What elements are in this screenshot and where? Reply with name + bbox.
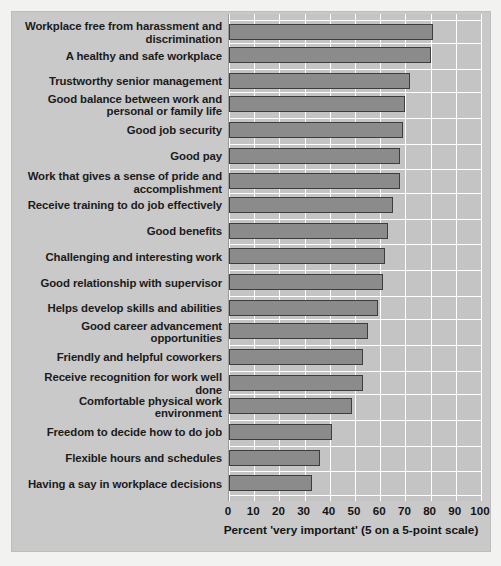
category-label: Helps develop skills and abilities: [17, 302, 222, 315]
gridline-horizontal: [229, 446, 481, 447]
bar-row: [229, 300, 481, 316]
gridline-horizontal: [229, 219, 481, 220]
gridline-horizontal: [229, 144, 481, 145]
category-label: Workplace free from harassment and discr…: [17, 20, 222, 45]
plot-area: [228, 14, 481, 501]
x-tick-label: 80: [423, 504, 436, 517]
bar: [229, 375, 363, 391]
category-label: Freedom to decide how to do job: [17, 426, 222, 439]
bar: [229, 323, 368, 339]
gridline-horizontal: [229, 69, 481, 70]
x-tick-label: 40: [322, 504, 335, 517]
x-tick-label: 50: [348, 504, 361, 517]
category-label: Comfortable physical work environment: [17, 395, 222, 420]
category-label: Flexible hours and schedules: [17, 452, 222, 465]
bar-row: [229, 424, 481, 440]
x-tick-label: 20: [272, 504, 285, 517]
gridline-horizontal: [229, 169, 481, 170]
bar-row: [229, 248, 481, 264]
bar-row: [229, 148, 481, 164]
bar-row: [229, 475, 481, 491]
bar: [229, 197, 393, 213]
bar-row: [229, 274, 481, 290]
bar: [229, 248, 385, 264]
bar: [229, 424, 332, 440]
x-tick-label: 30: [297, 504, 310, 517]
category-label: Good career advancement opportunities: [17, 320, 222, 345]
category-label-column: Workplace free from harassment and discr…: [17, 14, 222, 501]
bar: [229, 73, 410, 89]
bar-row: [229, 73, 481, 89]
gridline-horizontal: [229, 471, 481, 472]
bar: [229, 96, 405, 112]
x-tick-label: 0: [225, 504, 231, 517]
gridline-horizontal: [229, 118, 481, 119]
bar: [229, 47, 431, 63]
gridline-horizontal: [229, 345, 481, 346]
bar: [229, 300, 378, 316]
bar-row: [229, 223, 481, 239]
category-label: Work that gives a sense of pride and acc…: [17, 170, 222, 195]
category-label: Receive training to do job effectively: [17, 199, 222, 212]
gridline-vertical: [481, 14, 482, 501]
bar: [229, 450, 320, 466]
gridline-horizontal: [229, 270, 481, 271]
category-label: Good pay: [17, 150, 222, 163]
category-label: Good benefits: [17, 225, 222, 238]
gridline-horizontal: [229, 92, 481, 93]
category-label: Good relationship with supervisor: [17, 277, 222, 290]
category-label: Receive recognition for work well done: [17, 371, 222, 396]
chart-panel: Workplace free from harassment and discr…: [11, 11, 491, 552]
bar: [229, 173, 400, 189]
gridline-horizontal: [229, 43, 481, 44]
category-label: Trustworthy senior management: [17, 75, 222, 88]
bar-row: [229, 323, 481, 339]
bar-series: [229, 14, 481, 501]
bar-row: [229, 197, 481, 213]
x-tick-label: 10: [247, 504, 260, 517]
bar-row: [229, 47, 481, 63]
bar-row: [229, 173, 481, 189]
bar-row: [229, 375, 481, 391]
bar: [229, 274, 383, 290]
category-label: Good balance between work and personal o…: [17, 93, 222, 118]
gridline-horizontal: [229, 394, 481, 395]
bar: [229, 24, 433, 40]
x-tick-label: 100: [470, 504, 489, 517]
x-axis-tick-labels: 0102030405060708090100: [228, 504, 480, 520]
category-label: Challenging and interesting work: [17, 251, 222, 264]
x-axis-title: Percent 'very important' (5 on a 5-point…: [211, 523, 491, 537]
gridline-horizontal: [229, 296, 481, 297]
bar: [229, 349, 363, 365]
bar: [229, 398, 352, 414]
gridline-horizontal: [229, 319, 481, 320]
gridline-horizontal: [229, 371, 481, 372]
gridline-horizontal: [229, 420, 481, 421]
gridline-horizontal: [229, 20, 481, 21]
gridline-horizontal: [229, 193, 481, 194]
gridline-horizontal: [229, 495, 481, 496]
x-tick-label: 90: [448, 504, 461, 517]
category-label: Friendly and helpful coworkers: [17, 351, 222, 364]
category-label: Having a say in workplace decisions: [17, 478, 222, 491]
bar: [229, 148, 400, 164]
category-label: Good job security: [17, 124, 222, 137]
bar: [229, 475, 312, 491]
bar-row: [229, 24, 481, 40]
x-tick-label: 60: [373, 504, 386, 517]
category-label: A healthy and safe workplace: [17, 50, 222, 63]
bar-row: [229, 450, 481, 466]
gridline-horizontal: [229, 244, 481, 245]
bar-row: [229, 398, 481, 414]
bar-row: [229, 349, 481, 365]
bar-row: [229, 96, 481, 112]
bar-row: [229, 122, 481, 138]
x-tick-label: 70: [398, 504, 411, 517]
bar: [229, 122, 403, 138]
bar: [229, 223, 388, 239]
